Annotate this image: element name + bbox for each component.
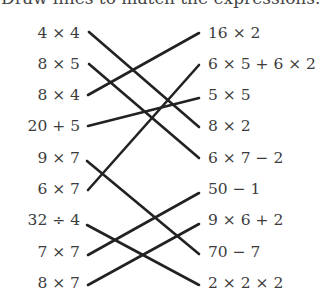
matching-lines (0, 0, 324, 305)
match-line (88, 193, 199, 255)
match-line (88, 65, 199, 190)
match-line (87, 161, 199, 254)
